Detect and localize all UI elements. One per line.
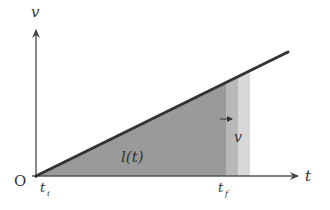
edge-velocity-label: v: [234, 129, 242, 145]
area-label: l(t): [121, 148, 144, 166]
x-axis-label: t: [305, 167, 312, 185]
origin-label: O: [14, 172, 26, 190]
tick-label-ti-sub: i: [47, 189, 50, 198]
y-axis-label: v: [31, 3, 40, 21]
area-fade-band-2: [238, 70, 250, 176]
velocity-time-diagram: v t O t i t f l(t) v: [0, 0, 330, 210]
tick-label-ti: t: [40, 180, 46, 195]
tick-label-tf-sub: f: [224, 189, 230, 198]
area-fade-band-1: [226, 76, 238, 176]
tick-label-tf: t: [218, 180, 224, 195]
